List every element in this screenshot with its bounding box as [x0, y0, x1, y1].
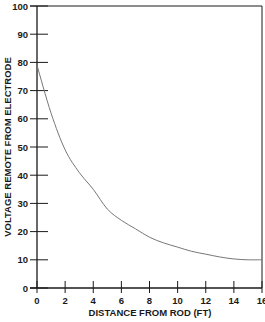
y-axis: 0102030405060708090100: [12, 1, 48, 294]
x-tick-label: 16: [257, 295, 265, 306]
y-tick-label: 30: [17, 198, 28, 209]
x-tick-label: 2: [62, 295, 67, 306]
voltage-curve: [37, 65, 262, 260]
y-tick-label: 60: [17, 113, 28, 124]
x-tick-label: 6: [119, 295, 124, 306]
y-tick-label: 100: [12, 1, 28, 12]
x-tick-label: 14: [229, 295, 240, 306]
y-tick-label: 80: [17, 57, 28, 68]
x-tick-label: 12: [200, 295, 211, 306]
x-tick-label: 10: [172, 295, 183, 306]
chart: 0102030405060708090100 0246810121416 DIS…: [0, 0, 265, 322]
y-tick-label: 0: [23, 283, 28, 294]
x-tick-label: 4: [91, 295, 97, 306]
y-tick-label: 40: [17, 170, 28, 181]
x-axis-title: DISTANCE FROM ROD (FT): [89, 307, 212, 318]
y-tick-label: 70: [17, 85, 28, 96]
y-tick-label: 10: [17, 254, 28, 265]
x-tick-label: 0: [34, 295, 39, 306]
x-axis: 0246810121416: [30, 281, 265, 306]
x-tick-label: 8: [147, 295, 152, 306]
y-tick-label: 50: [17, 142, 28, 153]
y-tick-label: 20: [17, 226, 28, 237]
y-axis-title: VOLTAGE REMOTE FROM ELECTRODE: [2, 57, 13, 237]
y-tick-label: 90: [17, 29, 28, 40]
